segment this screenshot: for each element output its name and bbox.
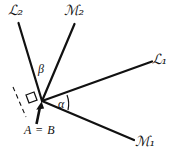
right-angle-marker [26,92,37,103]
label-line-l2: ℒ₂ [8,3,23,17]
label-angle-beta: β [38,63,44,75]
label-line-m1: ℳ₁ [135,134,155,148]
label-line-m1-text: ℳ₁ [135,133,155,149]
label-angle-alpha: α [58,98,64,110]
ray-l1 [42,62,152,102]
label-line-l1-text: ℒ₁ [152,51,167,67]
ray-m1 [42,101,134,140]
dashed-construction-line [13,87,26,117]
label-line-m2: ℳ₂ [64,3,84,17]
label-line-l1: ℒ₁ [152,52,167,66]
angle-arc-alpha [67,95,69,110]
geometry-figure: ℒ₂ ℳ₂ ℒ₁ ℳ₁ β α A = B [0,0,173,162]
label-vertex-text: A = B [24,123,55,137]
label-angle-beta-text: β [38,62,44,76]
vertex-pointer-arrow [36,102,44,125]
label-line-l2-text: ℒ₂ [8,2,23,18]
label-angle-alpha-text: α [58,97,64,111]
label-line-m2-text: ℳ₂ [64,2,84,18]
label-vertex-a-equals-b: A = B [24,124,55,136]
ray-m2 [42,24,75,101]
